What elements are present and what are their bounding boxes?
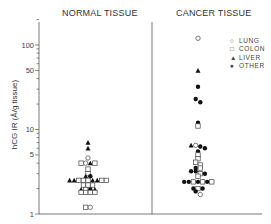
circle-filled-icon: ● [230, 62, 239, 69]
square-open-icon: □ [230, 45, 239, 52]
svg-text:10: 10 [26, 125, 34, 134]
svg-text:100: 100 [21, 41, 34, 50]
dot-plot: 100501051 [0, 0, 271, 224]
legend: ○ LUNG □ COLON ▲ LIVER ● OTHER [230, 36, 265, 70]
svg-text:1: 1 [30, 210, 34, 219]
svg-text:50: 50 [26, 66, 34, 75]
circle-open-icon: ○ [230, 37, 239, 44]
legend-item-colon: □ COLON [230, 45, 265, 54]
legend-item-lung: ○ LUNG [230, 36, 265, 45]
svg-text:5: 5 [30, 150, 34, 159]
legend-item-liver: ▲ LIVER [230, 53, 265, 62]
triangle-filled-icon: ▲ [230, 54, 239, 61]
legend-item-other: ● OTHER [230, 62, 265, 71]
